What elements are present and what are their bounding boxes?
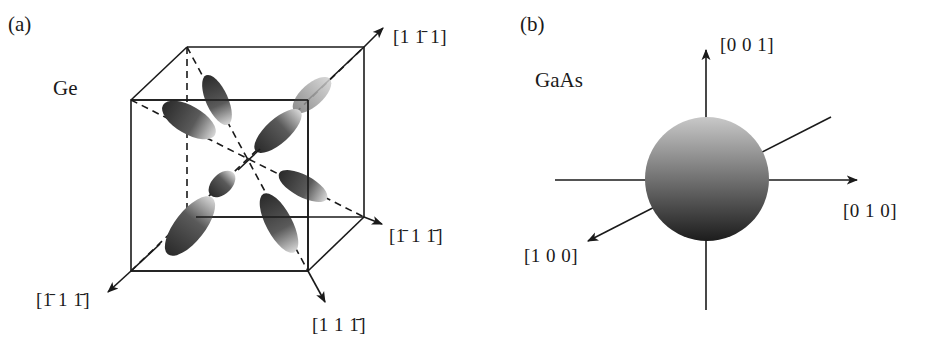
direction-label-1-1-1bar: [1 1 1̄] (312, 315, 366, 334)
band-structure-figure: (a) Ge [1 1̄ 1] [1̄ 1 1̄] [1̄ 1 1̄] [1 1… (0, 0, 927, 360)
ellipsoid-valley (274, 164, 332, 209)
direction-text: [1̄ 1 1̄] (389, 225, 443, 246)
direction-label-001: [0 0 1] (720, 35, 774, 54)
direction-label-1bar-1-1bar-left: [1̄ 1 1̄] (36, 290, 90, 309)
ellipsoid-valley (252, 188, 306, 258)
material-gaas-label: GaAs (535, 70, 583, 91)
direction-label-010: [0 1 0] (843, 201, 897, 220)
cube-edge (308, 217, 364, 271)
direction-label-1-1bar-1: [1 1̄ 1] (393, 27, 447, 46)
panel-a-label: (a) (8, 14, 31, 35)
cube-edge (131, 47, 187, 100)
gaas-sphere (645, 117, 769, 241)
direction-label-100: [1 0 0] (524, 246, 578, 265)
arrow-1bar-1-1bar-left (108, 271, 131, 292)
ellipsoid-valley (156, 188, 224, 263)
arrow-1-1bar-1 (364, 28, 383, 47)
panel-b-label: (b) (520, 14, 545, 35)
direction-text: [1 1̄ 1] (393, 26, 447, 47)
direction-text: [1̄ 1 1̄] (36, 289, 90, 310)
direction-text: [1 1 1̄] (312, 314, 366, 335)
arrow-1-1-1bar (308, 271, 325, 302)
material-ge-label: Ge (53, 78, 78, 99)
direction-label-1bar-1-1bar-right: [1̄ 1 1̄] (389, 226, 443, 245)
arrow-1bar-1-1bar-right (364, 217, 382, 224)
figure-graphics (0, 0, 927, 360)
